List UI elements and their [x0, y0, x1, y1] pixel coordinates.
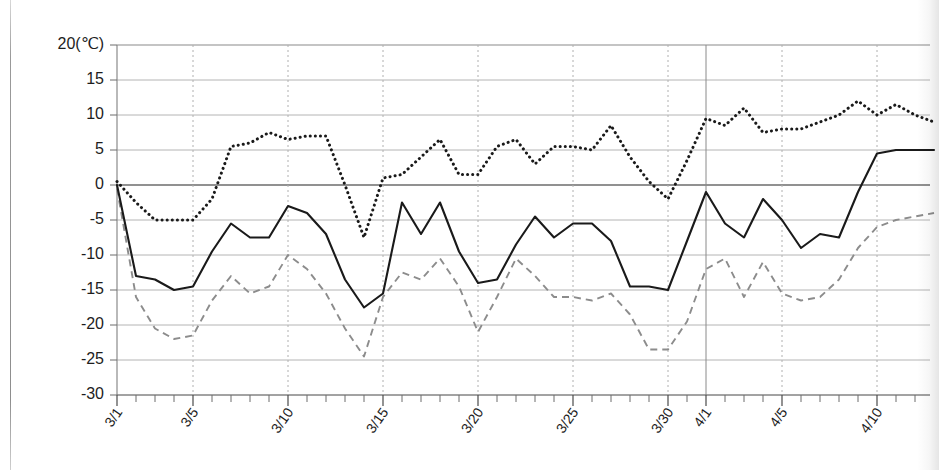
- chart-page: 20(℃)151050-5-10-15-20-25-30 3/13/53/103…: [0, 0, 939, 470]
- y-axis-label--10: -10: [81, 245, 104, 262]
- y-axis-labels: 20(℃)151050-5-10-15-20-25-30: [58, 35, 105, 402]
- y-axis-label-20: 20(℃): [58, 35, 104, 52]
- series-maximum-temperature: [117, 101, 934, 238]
- x-axis-label-3-30: 3/30: [648, 404, 677, 436]
- x-axis-label-3-25: 3/25: [553, 404, 582, 436]
- y-axis-label--20: -20: [81, 315, 104, 332]
- y-axis-label--25: -25: [81, 350, 104, 367]
- x-axis-label-4-1: 4/1: [690, 404, 714, 429]
- chart-canvas: 20(℃)151050-5-10-15-20-25-30 3/13/53/103…: [0, 0, 939, 470]
- x-axis-label-3-1: 3/1: [101, 404, 125, 429]
- x-axis-label-3-10: 3/10: [268, 404, 297, 436]
- y-axis-label-5: 5: [95, 140, 104, 157]
- x-axis-label-3-15: 3/15: [363, 404, 392, 436]
- series-layer: [117, 101, 934, 357]
- temperature-line-chart: 20(℃)151050-5-10-15-20-25-30 3/13/53/103…: [0, 0, 939, 470]
- y-axis-label--15: -15: [81, 280, 104, 297]
- y-axis-label-15: 15: [86, 70, 104, 87]
- y-axis-label-0: 0: [95, 175, 104, 192]
- x-axis-label-4-5: 4/5: [766, 404, 790, 429]
- x-axis-label-3-5: 3/5: [177, 404, 201, 429]
- y-axis-label-10: 10: [86, 105, 104, 122]
- series-minimum-temperature: [117, 189, 934, 357]
- y-axis-label--5: -5: [90, 210, 104, 227]
- x-axis-labels: 3/13/53/103/153/203/253/304/14/54/10: [101, 404, 885, 436]
- gridlines-layer: [117, 45, 930, 395]
- x-axis-label-4-10: 4/10: [857, 404, 886, 436]
- x-axis-label-3-20: 3/20: [458, 404, 487, 436]
- y-axis-label--30: -30: [81, 385, 104, 402]
